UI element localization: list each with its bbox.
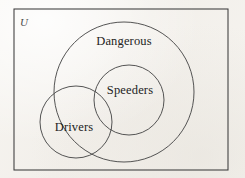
label-speeders: Speeders xyxy=(107,83,153,97)
universe-label: U xyxy=(20,16,29,28)
label-dangerous: Dangerous xyxy=(96,34,152,48)
venn-diagram-canvas: U Dangerous Speeders Drivers xyxy=(0,0,245,178)
venn-diagram-figure: U Dangerous Speeders Drivers xyxy=(0,0,245,178)
label-drivers: Drivers xyxy=(55,120,94,134)
